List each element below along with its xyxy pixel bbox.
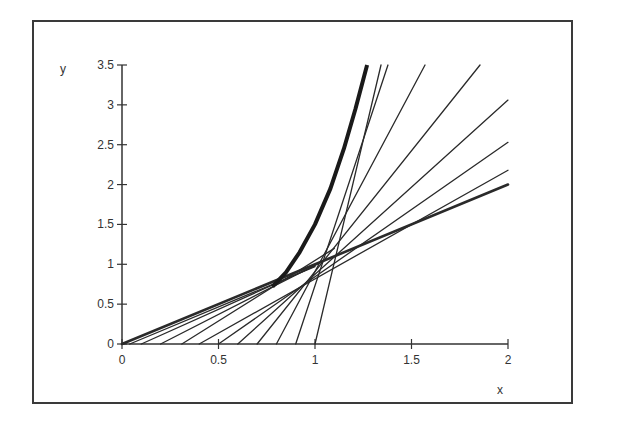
tangent-lines xyxy=(122,65,508,344)
envelope-curve-path xyxy=(273,65,368,287)
y-tick-label: 0.5 xyxy=(97,297,114,311)
y-tick-label: 3 xyxy=(107,98,114,112)
y-tick-label: 2.5 xyxy=(97,138,114,152)
tangent-line xyxy=(199,170,508,344)
y-tick-label: 2 xyxy=(107,178,114,192)
y-axis-label: y xyxy=(60,62,66,76)
x-tick-label: 1.5 xyxy=(403,353,420,367)
x-tick-label: 0 xyxy=(119,353,126,367)
x-tick-label: 0.5 xyxy=(210,353,227,367)
y-tick-label: 3.5 xyxy=(97,58,114,72)
x-tick-label: 2 xyxy=(505,353,512,367)
envelope-curve xyxy=(273,65,368,287)
tangent-line xyxy=(238,100,508,344)
axes: 00.511.5200.511.522.533.5 xyxy=(97,58,511,367)
y-tick-label: 1.5 xyxy=(97,217,114,231)
y-tick-label: 0 xyxy=(107,337,114,351)
plot-area: 00.511.5200.511.522.533.5 x y xyxy=(0,0,620,430)
y-tick-label: 1 xyxy=(107,257,114,271)
tangent-line xyxy=(122,185,508,344)
tangent-line xyxy=(276,65,425,344)
x-tick-label: 1 xyxy=(312,353,319,367)
x-axis-label: x xyxy=(497,383,503,397)
tangent-line xyxy=(296,65,388,344)
